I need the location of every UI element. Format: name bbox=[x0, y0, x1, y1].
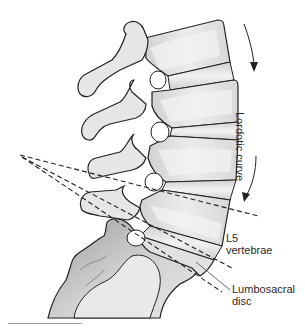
lordotic-curve-label: Lordotic curve bbox=[234, 112, 246, 192]
foramen-l1 bbox=[150, 71, 166, 89]
lumbosacral-disc-leader bbox=[196, 262, 230, 290]
disc-label-line1: Lumbosacral bbox=[232, 283, 295, 295]
lumbosacral-disc-label: Lumbosacral disc bbox=[232, 283, 295, 307]
l5-label-line1: L5 bbox=[226, 232, 272, 244]
l5-vertebrae-label: L5 vertebrae bbox=[226, 232, 272, 256]
foramen-l2 bbox=[151, 122, 169, 142]
disc-label-line2: disc bbox=[232, 295, 295, 307]
vertebral-bodies bbox=[140, 20, 238, 276]
lumbar-spine-illustration bbox=[0, 0, 305, 328]
foramen-l3 bbox=[145, 173, 163, 191]
l5-label-line2: vertebrae bbox=[226, 244, 272, 256]
footer-rule bbox=[8, 323, 82, 324]
